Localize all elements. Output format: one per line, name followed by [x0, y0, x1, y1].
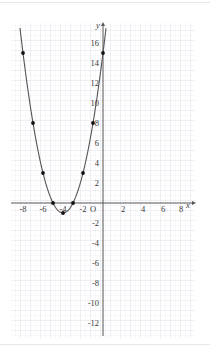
y-tick-label: -12	[88, 318, 99, 328]
origin-label: O	[90, 204, 96, 214]
y-tick-label: 2	[95, 178, 99, 188]
data-point	[81, 171, 85, 175]
y-tick-label: -4	[92, 238, 100, 248]
data-point	[91, 121, 95, 125]
y-tick-label: 12	[91, 78, 100, 88]
data-point	[41, 171, 45, 175]
data-point	[51, 201, 55, 205]
y-tick-label: 8	[95, 118, 99, 128]
x-tick-label: 8	[179, 204, 183, 214]
y-tick-label: 10	[91, 98, 100, 108]
data-point	[61, 211, 65, 215]
data-point	[101, 51, 105, 55]
data-point	[31, 121, 35, 125]
x-tick-label: -8	[19, 204, 26, 214]
y-tick-label: 6	[95, 138, 99, 148]
y-tick-label: 16	[91, 38, 100, 48]
x-tick-label: -6	[39, 204, 46, 214]
data-point	[21, 51, 25, 55]
x-tick-label: 6	[161, 204, 165, 214]
data-point	[71, 201, 75, 205]
y-tick-label: 14	[91, 58, 100, 68]
y-axis-label: y	[95, 20, 100, 30]
y-tick-label: -10	[88, 298, 99, 308]
page-frame: x y O -8 -6 -4 -2 2 4 6 8 2 4 6 8 10 12 …	[0, 0, 210, 352]
y-tick-label: -6	[92, 258, 99, 268]
x-tick-label: -2	[79, 204, 86, 214]
y-tick-label: -2	[92, 218, 99, 228]
x-axis-label: x	[185, 200, 190, 210]
x-tick-label: 2	[121, 204, 125, 214]
y-tick-label: -8	[92, 278, 99, 288]
coordinate-plane-figure: x y O -8 -6 -4 -2 2 4 6 8 2 4 6 8 10 12 …	[0, 0, 210, 352]
